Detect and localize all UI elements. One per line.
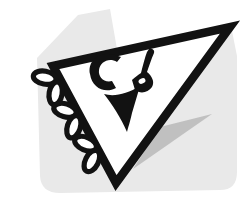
logo-canvas <box>0 0 246 205</box>
cp-pennant-logo <box>0 0 246 205</box>
